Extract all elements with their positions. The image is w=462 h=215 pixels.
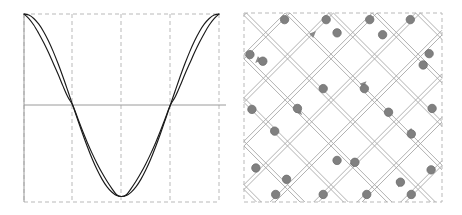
lattice-edge [314, 74, 442, 202]
lattice-node [351, 158, 359, 166]
lattice-node [319, 190, 327, 198]
lattice-node [322, 15, 330, 23]
waveform-plot-panel [0, 0, 231, 215]
lattice-diagram-svg [231, 0, 462, 215]
lattice-node [427, 166, 435, 174]
plot-axes [24, 14, 226, 202]
lattice-node [293, 104, 301, 112]
lattice-edge [270, 30, 442, 202]
plot-grid [24, 14, 219, 202]
lattice-node [360, 84, 368, 92]
waveform-plot-svg [0, 0, 231, 215]
lattice-edge [244, 13, 420, 189]
lattice-edge [244, 13, 329, 98]
lattice-edge-group [244, 13, 442, 202]
lattice-node [282, 175, 290, 183]
lattice-edge [416, 13, 442, 39]
lattice-node [246, 50, 254, 58]
lattice-edge [244, 98, 348, 202]
lattice-node [363, 190, 371, 198]
lattice-node [406, 15, 414, 23]
lattice-edge [420, 13, 442, 35]
lattice-edge [362, 122, 442, 202]
figure-container [0, 0, 462, 215]
lattice-node [259, 57, 267, 65]
lattice-node [248, 105, 256, 113]
lattice-edge [244, 13, 372, 141]
lattice-node [428, 104, 436, 112]
lattice-node [280, 15, 288, 23]
lattice-node [384, 108, 392, 116]
lattice-edge [244, 54, 392, 202]
lattice-node [407, 190, 415, 198]
lattice-node [419, 61, 427, 69]
lattice-node [252, 164, 260, 172]
lattice-edge [244, 13, 416, 185]
lattice-node [378, 31, 386, 39]
lattice-bounding-box [244, 13, 442, 202]
lattice-node [396, 178, 404, 186]
lattice-node [425, 49, 433, 57]
lattice-diagram-panel [231, 0, 462, 215]
lattice-node [333, 156, 341, 164]
lattice-node [319, 84, 327, 92]
lattice-edge [244, 13, 285, 54]
lattice-node [333, 29, 341, 37]
lattice-node [407, 130, 415, 138]
lattice-node [270, 127, 278, 135]
lattice-node [271, 190, 279, 198]
lattice-edge [246, 13, 435, 202]
lattice-edge [275, 35, 442, 202]
lattice-node [366, 15, 374, 23]
lattice-edge [357, 117, 442, 202]
